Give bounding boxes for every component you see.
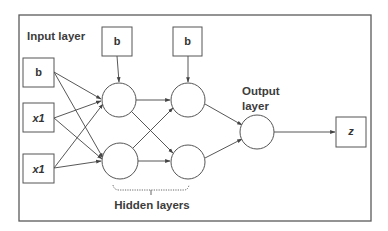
hidden1-neuron-1	[102, 83, 136, 117]
svg-text:b: b	[184, 35, 191, 47]
bias-node-hidden2: b	[173, 27, 202, 56]
bias-node-hidden1: b	[102, 27, 132, 56]
svg-text:b: b	[114, 35, 121, 47]
input-node-x1-second: x1	[23, 154, 54, 183]
input-node-x1-first: x1	[23, 103, 54, 132]
input-layer-label: Input layer	[27, 30, 86, 42]
svg-text:b: b	[35, 66, 42, 78]
svg-text:x1: x1	[31, 163, 44, 175]
input-node-b: b	[23, 58, 54, 87]
svg-text:z: z	[347, 125, 354, 137]
output-layer-label-line1: Output	[242, 85, 280, 97]
svg-text:x1: x1	[31, 112, 44, 124]
hidden-layers-label: Hidden layers	[114, 199, 189, 211]
output-node-z: z	[336, 117, 366, 147]
output-neuron	[240, 115, 274, 149]
neural-network-diagram: Input layer Output layer Hidden layers b…	[0, 0, 388, 231]
hidden1-neuron-2	[102, 143, 138, 179]
hidden2-neuron-1	[171, 83, 205, 117]
output-layer-label-line2: layer	[242, 100, 269, 112]
hidden2-neuron-2	[171, 145, 205, 179]
